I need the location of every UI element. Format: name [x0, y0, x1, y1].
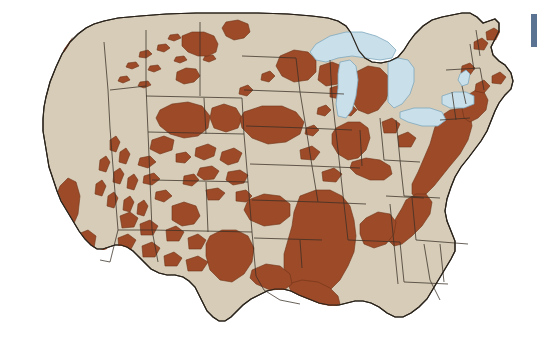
region-ca-coast-1 [43, 192, 54, 212]
lake-ontario [442, 92, 474, 108]
us-map-graphic[interactable] [0, 0, 538, 362]
region-wa-coast [54, 30, 60, 50]
region-ca-sb [96, 248, 114, 262]
vertical-scrollbar-thumb[interactable] [531, 14, 537, 47]
vertical-scrollbar-track[interactable] [531, 0, 538, 362]
map-viewport[interactable]: Shaded distribution area Unshaded area [0, 0, 538, 362]
region-ca-south [74, 230, 96, 254]
